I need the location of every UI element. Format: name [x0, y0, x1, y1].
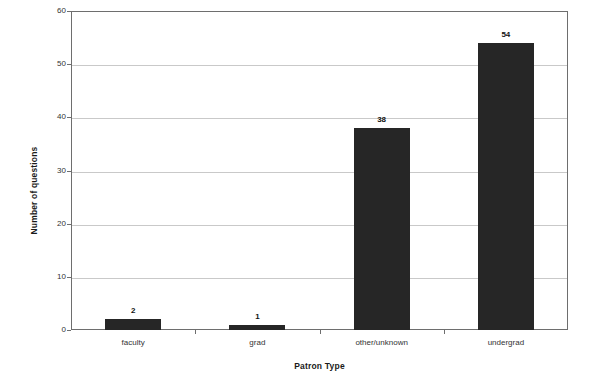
- y-axis-tick-label: 30: [40, 167, 66, 175]
- x-axis-category-separator: [195, 330, 196, 334]
- bar-value-label: 38: [362, 115, 402, 124]
- x-axis-category-label: other/unknown: [322, 338, 442, 348]
- bar: [354, 128, 410, 330]
- x-axis-category-label: faculty: [73, 338, 193, 348]
- x-axis-category-label: undergrad: [446, 338, 566, 348]
- y-axis-tick: [67, 11, 71, 12]
- bar: [478, 43, 534, 330]
- bar-value-label: 1: [237, 312, 277, 321]
- bar: [229, 325, 285, 330]
- bars-layer: [71, 11, 568, 330]
- x-axis-title: Patron Type: [71, 361, 568, 371]
- bar-chart-figure: Number of questions Patron Type 01020304…: [0, 0, 597, 381]
- y-axis-tick: [67, 64, 71, 65]
- x-axis-category-separator: [320, 330, 321, 334]
- bar-value-label: 2: [113, 306, 153, 315]
- bar: [105, 319, 161, 330]
- y-axis-tick: [67, 171, 71, 172]
- y-axis-tick: [67, 224, 71, 225]
- bar-value-label: 54: [486, 30, 526, 39]
- y-axis-tick: [67, 330, 71, 331]
- x-axis-category-label: grad: [197, 338, 317, 348]
- y-axis-tick-label: 40: [40, 113, 66, 121]
- y-axis-tick-label: 60: [40, 7, 66, 15]
- y-axis-tick-label: 50: [40, 60, 66, 68]
- y-axis-tick: [67, 277, 71, 278]
- y-axis-tick-label: 20: [40, 220, 66, 228]
- y-axis-tick-label: 0: [40, 326, 66, 334]
- y-axis-tick-label: 10: [40, 273, 66, 281]
- x-axis-category-separator: [444, 330, 445, 334]
- y-axis-tick: [67, 117, 71, 118]
- y-axis-title: Number of questions: [27, 0, 41, 381]
